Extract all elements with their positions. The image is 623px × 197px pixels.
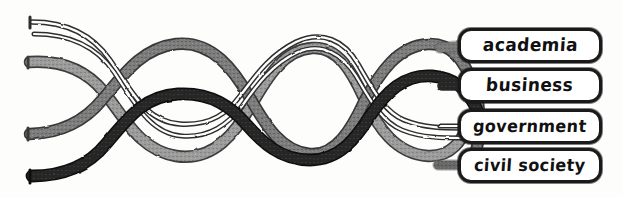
- label-text-business: business: [486, 76, 575, 94]
- label-box-government[interactable]: government: [458, 109, 602, 144]
- strand-left-endcaps: [28, 17, 30, 183]
- label-text-government: government: [473, 118, 588, 135]
- label-box-academia[interactable]: academia: [458, 28, 602, 63]
- braid-diagram: academia business government civil socie…: [0, 0, 623, 197]
- label-text-civil-society: civil society: [474, 157, 587, 174]
- label-box-business[interactable]: business: [458, 68, 602, 103]
- strand-medium-gray: [30, 44, 479, 160]
- label-text-academia: academia: [482, 36, 578, 54]
- label-box-civil-society[interactable]: civil society: [458, 148, 602, 183]
